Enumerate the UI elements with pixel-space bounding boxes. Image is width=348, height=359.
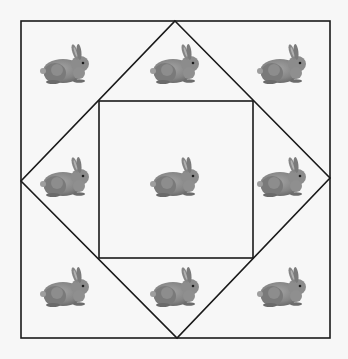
- rabbit-icon: [40, 44, 89, 84]
- rabbit-icon: [150, 157, 199, 197]
- rabbit-icon: [257, 267, 306, 307]
- rabbit-icon: [257, 157, 306, 197]
- nested-shapes-diagram: [0, 0, 348, 359]
- rabbit-icon: [150, 267, 199, 307]
- rabbit-icon: [40, 267, 89, 307]
- rabbit-group: [40, 44, 306, 307]
- rabbit-icon: [40, 157, 89, 197]
- rabbit-icon: [150, 44, 199, 84]
- rabbit-icon: [257, 44, 306, 84]
- diagram-stage: [0, 0, 348, 359]
